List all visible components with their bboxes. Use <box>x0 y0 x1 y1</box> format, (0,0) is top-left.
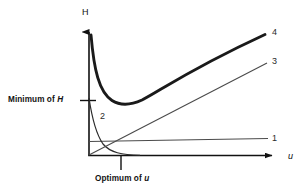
x-tick-label-symbol: u <box>144 174 149 183</box>
y-axis-title: H <box>82 8 89 17</box>
y-tick-label-symbol: H <box>57 95 63 104</box>
curve-label-1: 1 <box>272 134 277 143</box>
curve-3-path <box>89 63 267 155</box>
curve-label-2: 2 <box>100 112 105 121</box>
figure-container: H u Minimum of H Optimum of u 1 2 3 4 <box>0 0 307 196</box>
curve-2-path <box>89 98 140 155</box>
curve-label-3: 3 <box>272 57 277 66</box>
y-axis-tick-label-minimum: Minimum of H <box>8 96 63 104</box>
curve-label-4: 4 <box>272 28 277 37</box>
x-axis-tick-label-optimum: Optimum of u <box>95 175 149 183</box>
y-tick-label-text: Minimum of <box>8 95 55 104</box>
x-axis-title: u <box>288 152 293 161</box>
curve-4-path <box>91 35 265 105</box>
x-tick-label-text: Optimum of <box>95 174 142 183</box>
